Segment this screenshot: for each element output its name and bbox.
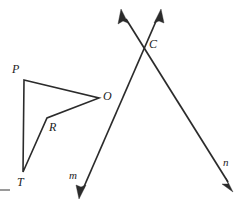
- line-n: [118, 9, 233, 192]
- line-label-m: m: [69, 170, 77, 181]
- diagram-vector-layer: [0, 0, 245, 215]
- polygon-edges: [23, 80, 99, 172]
- line-m-segment: [83, 19, 157, 189]
- crop-dash-mark: [0, 189, 10, 191]
- intersection-label-c: C: [149, 38, 157, 50]
- line-n-segment: [126, 19, 228, 182]
- vertex-label-p: P: [12, 63, 19, 75]
- vertex-label-o: O: [103, 90, 112, 102]
- vertex-label-t: T: [17, 176, 24, 188]
- line-m-arrowhead-top: [154, 9, 164, 23]
- polygon-port: [23, 80, 99, 172]
- line-label-n: n: [223, 157, 229, 168]
- line-n-arrowhead-top: [118, 9, 128, 24]
- geometry-diagram-canvas: P O R T C m n: [0, 0, 245, 215]
- vertex-label-r: R: [49, 121, 56, 133]
- line-m-arrowhead-bottom: [76, 185, 86, 199]
